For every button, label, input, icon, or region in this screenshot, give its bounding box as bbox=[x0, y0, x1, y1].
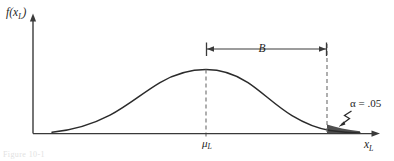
bracket-right-arrowhead-icon bbox=[319, 46, 326, 51]
figure-container: f(xL) xL B μL α = .05 Figure 10-1 bbox=[0, 0, 394, 161]
y-axis-label-close: ) bbox=[21, 6, 26, 19]
alpha-label: α = .05 bbox=[350, 97, 382, 109]
x-axis-arrowhead-icon bbox=[372, 130, 381, 136]
bracket-left-arrowhead-icon bbox=[207, 46, 214, 51]
figure-caption: Figure 10-1 bbox=[3, 150, 123, 159]
x-axis-label-subscript: L bbox=[368, 144, 373, 153]
mean-label: μL bbox=[201, 137, 212, 151]
y-axis-label: f(xL) bbox=[6, 6, 26, 21]
bracket-label: B bbox=[258, 42, 265, 54]
y-axis-label-main: f(x bbox=[6, 6, 19, 19]
density-diagram: f(xL) xL B μL α = .05 bbox=[0, 0, 394, 161]
x-axis-label: xL bbox=[363, 138, 373, 153]
mean-label-subscript: L bbox=[207, 142, 212, 151]
y-axis-arrowhead-icon bbox=[30, 14, 36, 22]
